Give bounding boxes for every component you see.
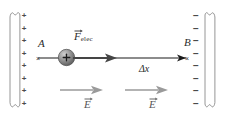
minus-sign: − [193,100,199,107]
force-vector-bar-icon [74,28,83,33]
force-subscript: elec [81,35,93,43]
point-a-label: A [38,38,45,49]
electric-field-arrow-2 [124,82,170,94]
electric-field-label-1: E [84,94,91,112]
field-vector-bar-icon [149,96,158,101]
plus-sign: + [22,87,27,94]
minus-sign: − [193,87,199,94]
plus-sign: + [22,75,27,82]
plus-sign: + [22,62,27,69]
point-a-marker: × [36,55,40,62]
displacement-label: Δx [139,64,149,74]
minus-sign: − [193,25,199,32]
plus-sign: + [22,100,27,107]
field-arrow-1-shape [59,84,105,96]
negative-plate-shape [202,8,224,111]
electric-field-arrow-1 [59,82,105,94]
positive-charge-column: + + + + + + + + [20,12,28,107]
plus-sign: + [22,37,27,44]
point-b-label: B [184,37,191,48]
field-arrow-2-shape [124,84,170,96]
electric-force-arrow-shape [72,51,120,65]
electric-field-label-2: E [149,94,156,112]
negative-plate [202,8,224,111]
minus-sign: − [193,12,199,19]
electric-force-label: Felec [74,26,93,44]
plus-sign: + [22,25,27,32]
plus-sign: + [22,12,27,19]
minus-sign: − [193,37,199,44]
point-b-marker: × [185,55,189,62]
plus-sign: + [22,50,27,57]
minus-sign: − [193,75,199,82]
figure-canvas: + + + + + + + + − − − − − − − − × × A B [0,0,231,118]
electric-force-arrow [72,51,120,65]
field-vector-bar-icon [84,96,93,101]
